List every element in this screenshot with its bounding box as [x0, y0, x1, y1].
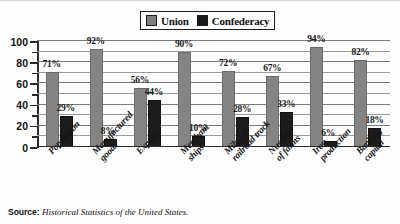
x-axis-labels: PopulationManufacturedgoodsExportsMercha…	[37, 150, 390, 202]
square-swatch-icon	[197, 15, 208, 26]
bar-value-label: 67%	[263, 64, 281, 74]
bar-value-label: 72%	[219, 59, 237, 69]
legend-item-label: Union	[161, 15, 189, 27]
y-axis-tick	[30, 105, 37, 107]
bar-group: 82%18%	[346, 41, 390, 147]
square-swatch-icon	[146, 15, 157, 26]
y-axis-tick	[30, 41, 37, 43]
legend-item-union: Union	[146, 15, 189, 27]
y-axis-tick	[30, 126, 37, 128]
y-axis-tick	[30, 83, 37, 85]
y-axis-tick-label: 40	[2, 100, 28, 111]
y-axis-tick-label: 0	[2, 143, 28, 154]
bar-value-label: 94%	[307, 35, 325, 45]
bar-value-label: 82%	[351, 48, 369, 58]
bar-value-label: 92%	[87, 37, 105, 47]
y-axis-tick-label: 60	[2, 79, 28, 90]
bar-value-label: 33%	[277, 100, 295, 110]
y-axis-tick-label: 20	[2, 121, 28, 132]
legend-item-label: Confederacy	[212, 15, 270, 27]
y-axis-labels: 020406080100	[0, 41, 28, 148]
y-axis-tick	[30, 62, 37, 64]
source-label: Source:	[8, 207, 40, 217]
y-axis-tick	[30, 147, 37, 149]
y-axis-tick-label: 80	[2, 58, 28, 69]
chart-figure: Union Confederacy 020406080100 71%29%92%…	[0, 0, 400, 224]
bar-value-label: 71%	[43, 60, 61, 70]
source-note: Source: Historical Statistics of the Uni…	[8, 207, 188, 217]
bar-value-label: 44%	[145, 88, 163, 98]
bar-value-label: 56%	[131, 76, 149, 86]
bar-union	[354, 60, 367, 147]
chart-legend: Union Confederacy	[140, 11, 275, 30]
source-text: Historical Statistics of the United Stat…	[42, 207, 189, 217]
bar-value-label: 29%	[57, 104, 75, 114]
bar-value-label: 28%	[233, 105, 251, 115]
legend-item-confederacy: Confederacy	[197, 15, 270, 27]
y-axis-tick-label: 100	[2, 37, 28, 48]
bar-value-label: 18%	[365, 116, 383, 126]
bar-value-label: 90%	[175, 40, 193, 50]
